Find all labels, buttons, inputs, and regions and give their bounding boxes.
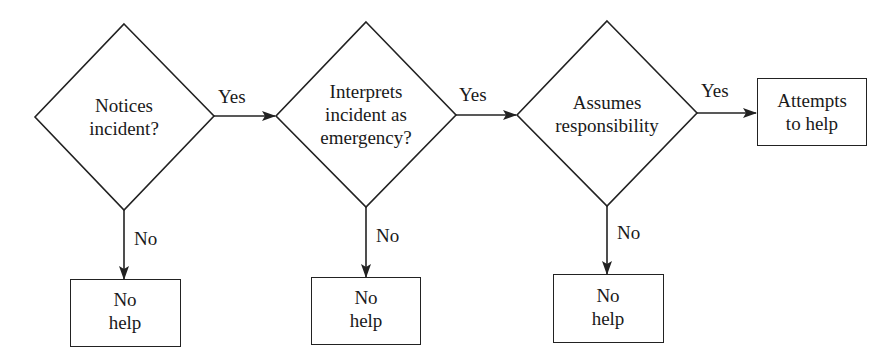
outcome-label-no-help-3: No help [592,284,625,330]
label-line: No [109,288,142,311]
label-line: help [109,311,142,334]
label-line: incident as [320,103,411,126]
edge-label-no-2: No [376,225,399,247]
label-line: emergency? [320,126,411,149]
label-line: incident? [89,117,159,140]
edge-label-yes-1: Yes [218,86,246,108]
outcome-label-attempts-to-help: Attempts to help [777,89,847,135]
outcome-label-no-help-1: No help [109,288,142,334]
decision-label-interprets: Interprets incident as emergency? [320,80,411,149]
edge-label-yes-2: Yes [459,84,487,106]
label-line: to help [777,112,847,135]
label-line: Assumes [555,91,658,114]
decision-label-notices: Notices incident? [89,94,159,140]
label-line: help [350,309,383,332]
edge-label-yes-3: Yes [701,80,729,102]
edge-label-no-1: No [134,228,157,250]
label-line: Attempts [777,89,847,112]
decision-label-assumes: Assumes responsibility [555,91,658,137]
label-line: Notices [89,94,159,117]
label-line: No [350,286,383,309]
label-line: responsibility [555,114,658,137]
outcome-label-no-help-2: No help [350,286,383,332]
label-line: Interprets [320,80,411,103]
label-line: No [592,284,625,307]
edge-label-no-3: No [617,222,640,244]
label-line: help [592,307,625,330]
